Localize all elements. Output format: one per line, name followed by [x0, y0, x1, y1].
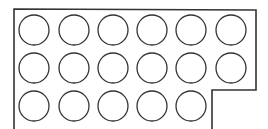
tray-outline: [14, 9, 256, 129]
tray-diagram: [0, 0, 268, 129]
circle-r3-c2: [59, 91, 89, 121]
circle-r2-c2: [59, 53, 89, 83]
circle-r1-c4: [137, 15, 167, 45]
circle-r1-c3: [98, 15, 128, 45]
circle-r2-c1: [19, 53, 49, 83]
circle-r3-c4: [137, 91, 167, 121]
circle-r3-c3: [98, 91, 128, 121]
circle-r3-c1: [19, 91, 49, 121]
circle-r1-c1: [19, 15, 49, 45]
circle-r1-c2: [59, 15, 89, 45]
circle-r2-c3: [98, 53, 128, 83]
circle-r2-c4: [137, 53, 167, 83]
circle-r2-c6: [216, 53, 246, 83]
circle-r3-c5: [176, 91, 206, 121]
circle-r1-c5: [176, 15, 206, 45]
circle-r2-c5: [176, 53, 206, 83]
circle-r1-c6: [216, 15, 246, 45]
